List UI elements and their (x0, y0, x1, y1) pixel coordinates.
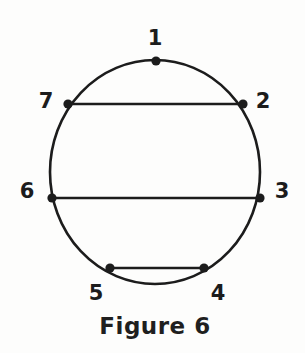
node-dot-1 (151, 56, 160, 65)
node-label-7: 7 (39, 91, 54, 112)
node-dot-6 (47, 193, 56, 202)
node-dot-4 (199, 263, 208, 272)
node-label-3: 3 (275, 181, 290, 202)
node-label-2: 2 (256, 91, 271, 112)
node-label-6: 6 (20, 181, 35, 202)
node-label-4: 4 (211, 283, 226, 304)
node-label-1: 1 (148, 28, 163, 49)
node-dot-5 (105, 263, 114, 272)
circle-diagram (0, 0, 305, 353)
node-dot-3 (255, 193, 264, 202)
node-label-5: 5 (89, 283, 104, 304)
node-dot-group (47, 56, 264, 272)
circle-outline (50, 60, 260, 284)
node-dot-7 (63, 99, 72, 108)
chord-group (52, 104, 260, 268)
node-dot-2 (238, 99, 247, 108)
figure-container: 1 2 3 4 5 6 7 Figure 6 (0, 0, 305, 353)
figure-caption: Figure 6 (99, 313, 210, 339)
